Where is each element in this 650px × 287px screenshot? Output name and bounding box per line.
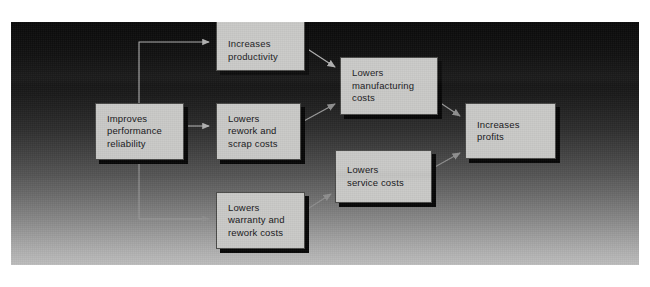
node-label: Lowers manufacturing costs xyxy=(352,67,414,104)
node-increases-productivity[interactable]: Increases productivity xyxy=(216,22,305,71)
connector-service-to-profits xyxy=(433,153,460,168)
node-improves-performance-reliability[interactable]: Improves performance reliability xyxy=(95,103,184,160)
node-label: Lowers rework and scrap costs xyxy=(228,113,278,150)
node-label: Increases productivity xyxy=(228,38,278,63)
node-label: Lowers warranty and rework costs xyxy=(228,202,285,239)
connector-productivity-to-manufacturing xyxy=(306,48,335,67)
node-increases-profits[interactable]: Increases profits xyxy=(465,103,556,159)
node-label: Increases profits xyxy=(477,119,520,144)
connector-warranty-rework-to-service xyxy=(306,194,331,210)
node-lowers-rework-and-scrap-costs[interactable]: Lowers rework and scrap costs xyxy=(216,103,301,160)
node-label: Lowers service costs xyxy=(347,164,404,189)
figure-stage: Improves performance reliability Increas… xyxy=(0,0,650,287)
connector-reliability-to-productivity xyxy=(139,42,209,103)
node-lowers-service-costs[interactable]: Lowers service costs xyxy=(335,150,432,203)
node-lowers-warranty-and-rework-costs[interactable]: Lowers warranty and rework costs xyxy=(216,192,305,249)
connector-rework-scrap-to-manufacturing xyxy=(302,104,335,122)
node-lowers-manufacturing-costs[interactable]: Lowers manufacturing costs xyxy=(340,57,438,115)
node-label: Improves performance reliability xyxy=(107,113,162,150)
connector-reliability-to-warranty-rework xyxy=(139,161,209,219)
connector-manufacturing-to-profits xyxy=(439,102,460,116)
diagram-canvas: Improves performance reliability Increas… xyxy=(11,22,639,265)
